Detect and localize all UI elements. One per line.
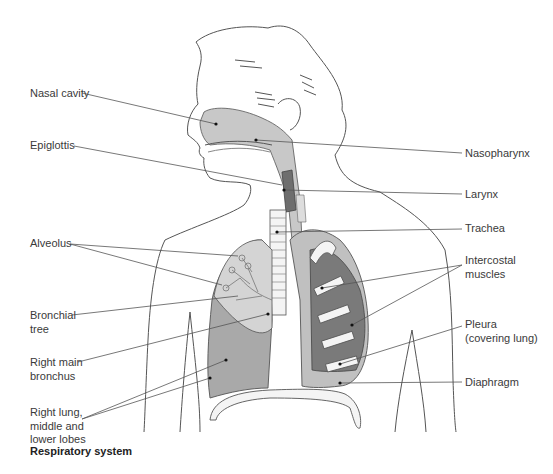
label-line: middle and	[30, 420, 86, 434]
label-line: Right lung,	[30, 406, 86, 420]
esophagus-shape	[296, 195, 306, 222]
label-line: bronchus	[30, 370, 83, 384]
label-line: Bronchial	[30, 309, 76, 323]
label-bronchial-tree: Bronchial tree	[30, 309, 76, 336]
label-line: Right main	[30, 356, 83, 370]
anatomy-illustration	[0, 0, 553, 474]
label-trachea: Trachea	[465, 222, 505, 236]
respiratory-system-diagram: Nasal cavity Epiglottis Alveolus Bronchi…	[0, 0, 553, 474]
label-line: tree	[30, 323, 76, 337]
label-nasal-cavity: Nasal cavity	[30, 87, 89, 101]
label-alveolus: Alveolus	[30, 237, 72, 251]
label-line: muscles	[465, 268, 516, 282]
figure-caption: Respiratory system	[30, 445, 132, 457]
label-pleura: Pleura (covering lung)	[465, 318, 538, 345]
label-intercostal-muscles: Intercostal muscles	[465, 254, 516, 281]
label-line: Intercostal	[465, 254, 516, 268]
label-line: Pleura	[465, 318, 538, 332]
label-diaphragm: Diaphragm	[465, 376, 519, 390]
diaphragm-shape	[210, 389, 361, 428]
label-larynx: Larynx	[465, 188, 498, 202]
label-right-lung: Right lung, middle and lower lobes	[30, 406, 86, 447]
label-epiglottis: Epiglottis	[30, 139, 75, 153]
label-line: (covering lung)	[465, 332, 538, 346]
label-nasopharynx: Nasopharynx	[465, 147, 530, 161]
label-right-main-bronchus: Right main bronchus	[30, 356, 83, 383]
tongue-line	[208, 148, 270, 152]
